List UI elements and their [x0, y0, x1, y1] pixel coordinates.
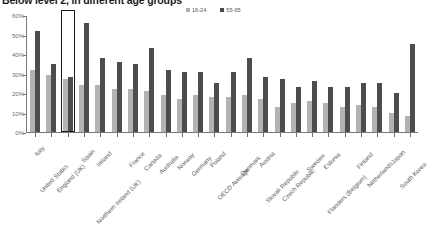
bar-55-65[interactable] [345, 87, 350, 132]
x-axis-label-text: Germany [191, 155, 213, 177]
bar-55-65[interactable] [51, 64, 56, 132]
bar-55-65[interactable] [263, 77, 268, 132]
chart-title: Below level 2, in different age groups [2, 0, 182, 6]
bar-55-65[interactable] [312, 81, 317, 132]
x-axis-label-text: Ireland [95, 150, 113, 168]
plot-area: 0%10%20%30%40%50%60% [26, 16, 418, 133]
bar-group[interactable] [402, 16, 418, 132]
x-axis-label-text: Japan [390, 149, 406, 165]
x-axis-label-text: Estonia [323, 152, 342, 171]
bar-55-65[interactable] [214, 83, 219, 132]
y-axis-tick-label: 30% [12, 72, 24, 78]
bar-55-65[interactable] [166, 70, 171, 132]
x-axis-label-text: Denmark [240, 155, 262, 177]
x-axis-labels: ItalyUnited StatesEngland (UK)SpainIrela… [27, 137, 418, 206]
x-axis-label-text: Finland [356, 151, 375, 170]
bar-group[interactable] [141, 16, 157, 132]
chart-legend: 16-24 55-65 [186, 7, 241, 13]
bar-55-65[interactable] [100, 58, 105, 132]
bar-55-65[interactable] [198, 72, 203, 132]
x-axis-label-text: Italy [33, 145, 45, 157]
bar-group[interactable] [125, 16, 141, 132]
bar-55-65[interactable] [84, 23, 89, 132]
bar-group[interactable] [239, 16, 255, 132]
bar-group[interactable] [27, 16, 43, 132]
bar-group[interactable] [190, 16, 206, 132]
bar-55-65[interactable] [328, 87, 333, 132]
bar-55-65[interactable] [35, 31, 40, 132]
bar-group[interactable] [304, 16, 320, 132]
bar-55-65[interactable] [182, 72, 187, 132]
bar-55-65[interactable] [280, 79, 285, 132]
y-axis-tick-label: 60% [12, 13, 24, 19]
bars-layer [27, 16, 418, 132]
x-axis-label-text: Spain [80, 148, 96, 164]
y-axis-tick-label: 40% [12, 52, 24, 58]
y-axis-tick-label: 20% [12, 91, 24, 97]
bar-group[interactable] [43, 16, 59, 132]
bar-group[interactable] [255, 16, 271, 132]
bar-group[interactable] [206, 16, 222, 132]
y-axis-tick-label: 0% [15, 130, 24, 136]
legend-swatch-icon-55-65 [220, 8, 224, 12]
bar-group[interactable] [174, 16, 190, 132]
bar-group[interactable] [386, 16, 402, 132]
x-axis-label-text: South Korea [399, 161, 427, 190]
y-axis-tick-label: 50% [12, 33, 24, 39]
bar-group[interactable] [157, 16, 173, 132]
bar-group[interactable] [76, 16, 92, 132]
legend-item-16-24[interactable]: 16-24 [186, 7, 206, 13]
x-axis-label-text: Netherlands [366, 161, 394, 189]
legend-label-16-24: 16-24 [192, 7, 206, 13]
bar-55-65[interactable] [117, 62, 122, 132]
bar-55-65[interactable] [133, 64, 138, 132]
legend-label-55-65: 55-65 [226, 7, 240, 13]
x-axis-label-text: Austria [258, 151, 276, 169]
bar-55-65[interactable] [361, 83, 366, 132]
bar-55-65[interactable] [377, 83, 382, 132]
x-axis-label-text: Northern Ireland (UK) [95, 179, 141, 225]
bar-group[interactable] [223, 16, 239, 132]
legend-item-55-65[interactable]: 55-65 [220, 7, 240, 13]
bar-group[interactable] [337, 16, 353, 132]
bar-group[interactable] [271, 16, 287, 132]
legend-swatch-icon-16-24 [186, 8, 190, 12]
bar-55-65[interactable] [149, 48, 154, 132]
bar-group[interactable] [92, 16, 108, 132]
bar-55-65[interactable] [247, 58, 252, 132]
bar-group[interactable] [369, 16, 385, 132]
bar-group[interactable] [60, 16, 76, 132]
bar-group[interactable] [108, 16, 124, 132]
bar-group[interactable] [353, 16, 369, 132]
bar-55-65[interactable] [394, 93, 399, 132]
bar-55-65[interactable] [296, 87, 301, 132]
bar-55-65[interactable] [231, 72, 236, 132]
bar-group[interactable] [288, 16, 304, 132]
y-axis-tick-label: 10% [12, 111, 24, 117]
bar-group[interactable] [320, 16, 336, 132]
bar-55-65[interactable] [410, 44, 415, 132]
x-axis-label-text: Flanders (Belgium) [326, 174, 367, 215]
x-axis-label-text: Poland [209, 151, 227, 169]
bar-55-65[interactable] [68, 77, 73, 132]
